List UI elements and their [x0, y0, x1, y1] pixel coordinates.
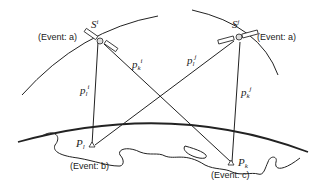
event-label-right-satellite: (Event: a)	[257, 32, 296, 42]
range-line-jl	[95, 41, 234, 145]
coastline-peninsula	[184, 146, 206, 158]
earth-surface	[18, 123, 308, 152]
satellite-label-left: Si	[91, 18, 99, 30]
range-label-il: pli	[79, 83, 89, 98]
event-label-left-satellite: (Event: a)	[38, 32, 77, 42]
range-label-jl: plj	[186, 53, 196, 68]
satellite-diagram: Si (Event: a) Sj (Event: a) pli pki plj …	[0, 0, 320, 190]
range-line-il	[92, 42, 98, 145]
station-icon-left	[89, 142, 95, 147]
range-label-ik: pki	[131, 57, 143, 72]
station-icon-right	[228, 160, 234, 165]
event-label-right-station: (Event: c)	[211, 170, 250, 180]
satellite-label-right: Sj	[232, 18, 240, 30]
range-label-jk: pkj	[240, 85, 252, 100]
range-line-jk	[232, 42, 240, 162]
range-line-ik	[104, 44, 231, 162]
event-label-left-station: (Event: b)	[70, 161, 109, 171]
station-label-left: Pl	[75, 137, 85, 151]
station-label-right: Pk	[237, 156, 249, 170]
orbit-arc-left	[22, 16, 158, 95]
